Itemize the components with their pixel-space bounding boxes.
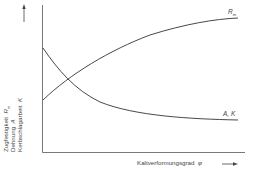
y-label-line-3: Kerbschlagarbeit K [16,98,23,152]
x-axis-label: Kaltverformungsgrad φ [137,159,202,166]
y-label-sym-1: R [2,109,9,113]
x-label-text: Kaltverformungsgrad [137,159,194,166]
x-label-sym: φ [198,159,202,166]
y-label-sub-1: m [6,106,11,109]
y-axis-label: Zugfestigkeit Rm Dehnung A Kerbschlagarb… [2,98,23,152]
y-label-line-1: Zugfestigkeit Rm [2,98,9,152]
chart-canvas [0,0,253,173]
y-label-text-2: Dehnung [9,127,16,152]
y-label-sym-2: A [9,119,16,123]
y-label-text-3: Kerbschlagarbeit [16,106,23,152]
curve-rm [43,18,238,100]
y-axis-arrow-icon [22,4,25,22]
curve-label-rm: Rm [228,8,236,17]
x-axis-arrow-icon [222,162,238,165]
curve-label-rm-sub: m [233,12,236,17]
curve-label-a-k: A, K [223,110,235,117]
y-label-text-1: Zugfestigkeit [2,117,9,152]
curve-a-k [43,48,238,120]
y-label-sym-3: K [16,98,23,102]
